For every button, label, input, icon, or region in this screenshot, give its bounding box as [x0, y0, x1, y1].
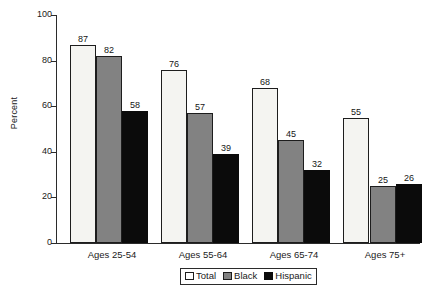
y-tick-label-80: 80 — [42, 55, 52, 65]
y-tick-label-60: 60 — [42, 100, 52, 110]
bar-value-total-ages-65-74: 68 — [260, 77, 270, 87]
bar-hispanic-ages-55-64: 39 — [213, 154, 239, 243]
chart-legend: Total Black Hispanic — [180, 268, 317, 285]
y-tick-label-100: 100 — [37, 9, 52, 19]
bar-black-ages-75-plus: 25 — [370, 186, 396, 243]
bar-group-ages-25-54: 87 82 58 — [70, 15, 154, 243]
legend-swatch-black-icon — [223, 272, 232, 280]
bar-group-ages-65-74: 68 45 32 — [252, 15, 336, 243]
y-tick-label-20: 20 — [42, 191, 52, 201]
bar-value-hispanic-ages-55-64: 39 — [221, 143, 231, 153]
bar-group-ages-75-plus: 55 25 26 — [343, 15, 427, 243]
x-axis-label-ages-25-54: Ages 25-54 — [62, 249, 162, 260]
bar-hispanic-ages-25-54: 58 — [122, 111, 148, 243]
bar-value-hispanic-ages-75-plus: 26 — [404, 173, 414, 183]
bar-total-ages-55-64: 76 — [161, 70, 187, 243]
x-axis-label-ages-55-64: Ages 55-64 — [153, 249, 253, 260]
x-axis-line — [56, 243, 420, 244]
bar-total-ages-25-54: 87 — [70, 45, 96, 243]
legend-label-black: Black — [234, 270, 257, 282]
legend-item-hispanic: Hispanic — [264, 270, 311, 282]
bar-value-black-ages-25-54: 82 — [104, 45, 114, 55]
bar-value-total-ages-55-64: 76 — [169, 59, 179, 69]
legend-label-hispanic: Hispanic — [275, 270, 311, 282]
y-axis-line — [56, 15, 57, 243]
bar-black-ages-55-64: 57 — [187, 113, 213, 243]
bar-value-total-ages-25-54: 87 — [78, 34, 88, 44]
legend-label-total: Total — [196, 270, 216, 282]
bar-value-black-ages-65-74: 45 — [286, 129, 296, 139]
legend-swatch-hispanic-icon — [264, 272, 273, 280]
y-tick-label-40: 40 — [42, 146, 52, 156]
bar-value-black-ages-55-64: 57 — [195, 102, 205, 112]
x-axis-label-ages-65-74: Ages 65-74 — [244, 249, 344, 260]
bar-chart: Percent 100 80 60 40 20 0 — [0, 0, 448, 292]
y-tick-label-0: 0 — [47, 237, 52, 247]
y-axis-title: Percent — [9, 73, 19, 153]
bar-black-ages-25-54: 82 — [96, 56, 122, 243]
bar-value-black-ages-75-plus: 25 — [378, 175, 388, 185]
x-axis-label-ages-75-plus: Ages 75+ — [335, 249, 435, 260]
plot-area: 100 80 60 40 20 0 87 82 — [56, 15, 420, 243]
legend-item-black: Black — [223, 270, 257, 282]
bar-group-ages-55-64: 76 57 39 — [161, 15, 245, 243]
bar-value-hispanic-ages-25-54: 58 — [130, 100, 140, 110]
bar-black-ages-65-74: 45 — [278, 140, 304, 243]
legend-swatch-total-icon — [185, 272, 194, 280]
bar-hispanic-ages-75-plus: 26 — [396, 184, 422, 243]
bar-total-ages-65-74: 68 — [252, 88, 278, 243]
bar-value-total-ages-75-plus: 55 — [351, 107, 361, 117]
legend-item-total: Total — [185, 270, 216, 282]
bar-hispanic-ages-65-74: 32 — [304, 170, 330, 243]
bar-total-ages-75-plus: 55 — [343, 118, 369, 243]
bar-value-hispanic-ages-65-74: 32 — [312, 159, 322, 169]
